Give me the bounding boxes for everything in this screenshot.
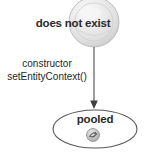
transition-label-line-1: constructor [2,57,92,70]
transition-label-line-2: setEntityContext() [2,70,92,83]
arrow-head [90,101,98,110]
state-label-pooled: pooled [53,114,137,126]
transition-label: constructor setEntityContext() [2,57,92,83]
swirl-circle-icon [87,129,100,142]
swirl-icon-disc [87,129,100,142]
state-label-does-not-exist: does not exist [0,18,146,30]
state-diagram: does not exist pooled constructor setEnt… [0,0,146,152]
